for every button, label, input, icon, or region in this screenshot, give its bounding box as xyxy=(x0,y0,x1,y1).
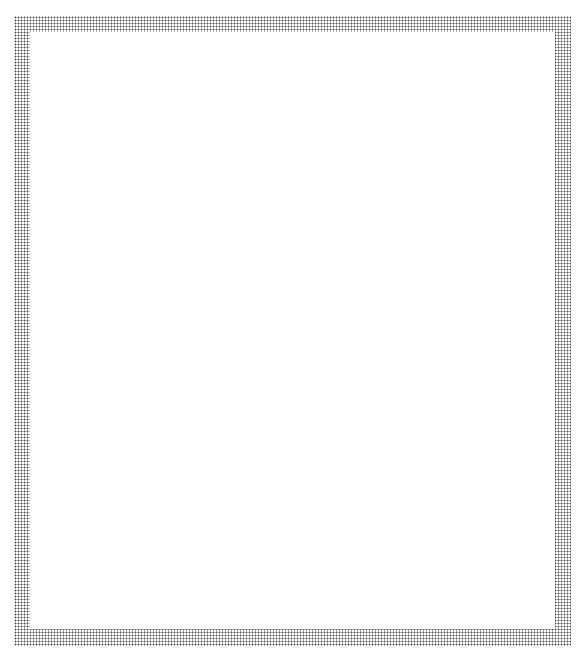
hexaxial-diagram xyxy=(0,0,585,655)
